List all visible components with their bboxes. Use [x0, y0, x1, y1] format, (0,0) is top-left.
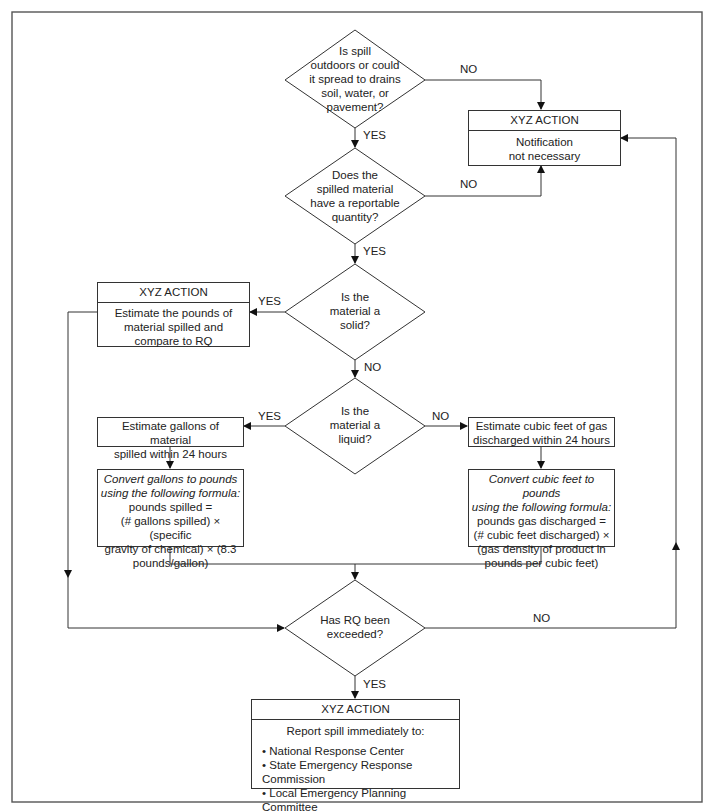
decision-d1-line: Is spill [295, 44, 415, 58]
action-text: material spilled and [102, 320, 245, 334]
decision-d4-line: material a [305, 418, 405, 432]
report-item: National Response Center [262, 744, 455, 758]
decision-d5: Has RQ been exceeded? [305, 613, 405, 641]
decision-d5-line: exceeded? [305, 627, 405, 641]
edge-d2-notification [425, 166, 541, 196]
decision-d1-line: outdoors or could [295, 58, 415, 72]
decision-d1-line: soil, water, or [295, 86, 415, 100]
action-text: compare to RQ [102, 334, 245, 348]
decision-d5-line: Has RQ been [305, 613, 405, 627]
report-intro: Report spill immediately to: [256, 724, 455, 738]
decision-d1: Is spill outdoors or could it spread to … [295, 44, 415, 114]
edge-label-d4-yes: YES [258, 409, 281, 423]
edge-d1-notification [425, 80, 541, 109]
edge-label-d2-no: NO [460, 177, 477, 191]
formula-text: pounds gas discharged = [471, 514, 612, 528]
decision-d2-line: have a reportable [295, 196, 415, 210]
edge-solid-down [68, 312, 97, 577]
decision-d1-line: it spread to drains [295, 72, 415, 86]
formula-text: pounds per cubic feet) [471, 556, 612, 570]
formula-intro: Convert cubic feet to pounds [471, 472, 612, 500]
action-text: discharged within 24 hours [471, 433, 612, 447]
decision-d1-line: pavement? [295, 100, 415, 114]
report-list: National Response Center State Emergency… [256, 744, 455, 811]
action-notification-box: XYZ ACTION Notification not necessary [468, 110, 621, 166]
formula-text: pounds/gallon) [100, 556, 241, 570]
edge-label-d1-yes: YES [363, 128, 386, 142]
action-text: Estimate cubic feet of gas [471, 419, 612, 433]
action-header: XYZ ACTION [252, 700, 459, 720]
action-report-box: XYZ ACTION Report spill immediately to: … [251, 699, 460, 789]
decision-d4-line: liquid? [305, 432, 405, 446]
decision-d2-line: quantity? [295, 210, 415, 224]
action-text: Estimate the pounds of [102, 306, 245, 320]
report-item: State Emergency Response Commission [262, 758, 455, 786]
edge-label-d2-yes: YES [363, 244, 386, 258]
action-text: Estimate gallons of material [100, 419, 241, 447]
edge-label-d4-no: NO [432, 409, 449, 423]
formula-intro: Convert gallons to pounds [100, 472, 241, 486]
formula-intro: using the following formula: [100, 486, 241, 500]
decision-d3-line: material a [305, 304, 405, 318]
decision-d3: Is the material a solid? [305, 290, 405, 332]
liquid-estimate-box: Estimate gallons of material spilled wit… [97, 417, 244, 447]
formula-intro: using the following formula: [471, 500, 612, 514]
edge-solid-d5 [68, 577, 284, 628]
action-header: XYZ ACTION [469, 111, 620, 131]
edge-label-d5-yes: YES [363, 677, 386, 691]
action-text: spilled within 24 hours [100, 447, 241, 461]
edge-label-d1-no: NO [460, 62, 477, 76]
formula-text: pounds spilled = [100, 500, 241, 514]
report-item: Local Emergency Planning Committee [262, 786, 455, 811]
formula-text: gravity of chemical) × (8.3 [100, 542, 241, 556]
formula-text: (# gallons spilled) × (specific [100, 514, 241, 542]
decision-d3-line: solid? [305, 318, 405, 332]
edge-label-d5-no: NO [533, 611, 550, 625]
gas-estimate-box: Estimate cubic feet of gas discharged wi… [468, 417, 615, 447]
gas-convert-box: Convert cubic feet to pounds using the f… [468, 469, 615, 547]
formula-text: (# cubic feet discharged) × [471, 528, 612, 542]
edge-label-d3-yes: YES [258, 294, 281, 308]
formula-text: (gas density of product in [471, 542, 612, 556]
decision-d2: Does the spilled material have a reporta… [295, 168, 415, 224]
decision-d3-line: Is the [305, 290, 405, 304]
liquid-convert-box: Convert gallons to pounds using the foll… [97, 469, 244, 547]
decision-d4: Is the material a liquid? [305, 404, 405, 446]
decision-d2-line: spilled material [295, 182, 415, 196]
action-text: not necessary [473, 149, 616, 163]
edge-d5-notification [621, 138, 676, 543]
decision-d4-line: Is the [305, 404, 405, 418]
edge-label-d3-no: NO [364, 360, 381, 374]
action-header: XYZ ACTION [98, 283, 249, 303]
action-text: Notification [473, 135, 616, 149]
decision-d2-line: Does the [295, 168, 415, 182]
action-solid-box: XYZ ACTION Estimate the pounds of materi… [97, 282, 250, 347]
